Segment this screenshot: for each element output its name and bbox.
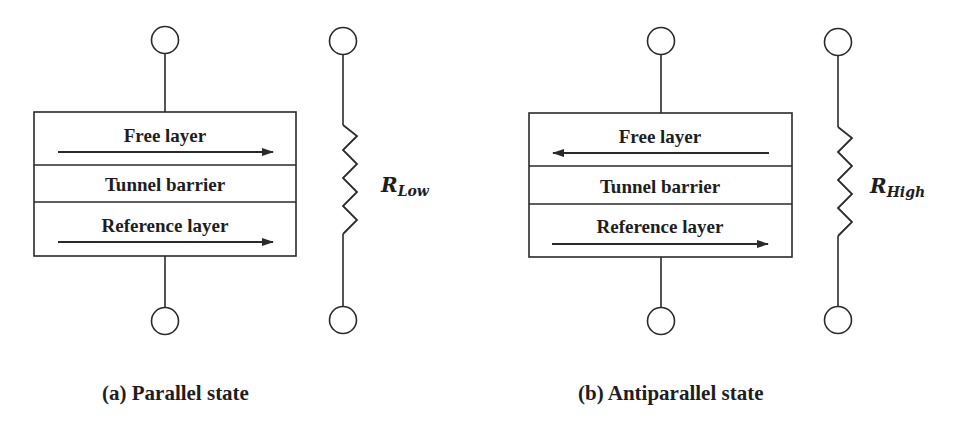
- resistor-zigzag-icon: [343, 125, 357, 234]
- panel-parallel: Free layer Tunnel barrier Reference laye…: [34, 27, 430, 406]
- top-terminal-icon: [648, 28, 675, 55]
- free-layer-label: Free layer: [124, 125, 207, 146]
- resistor-zigzag-icon: [838, 127, 852, 236]
- resistor-low: RLow: [330, 28, 430, 334]
- bottom-terminal-icon: [152, 308, 179, 335]
- bottom-terminal-icon: [648, 308, 675, 335]
- bottom-terminal-icon: [330, 307, 357, 334]
- tunnel-barrier-label: Tunnel barrier: [105, 174, 226, 195]
- panel-antiparallel: Free layer Tunnel barrier Reference laye…: [529, 28, 925, 406]
- mtj-diagram: Free layer Tunnel barrier Reference laye…: [0, 0, 959, 441]
- top-terminal-icon: [152, 27, 179, 54]
- top-terminal-icon: [330, 28, 357, 55]
- bottom-terminal-icon: [825, 307, 852, 334]
- caption-antiparallel-state: (b) Antiparallel state: [578, 381, 763, 405]
- free-layer-label: Free layer: [619, 126, 702, 147]
- resistance-label: RHigh: [869, 174, 925, 200]
- mtj-device-b: Free layer Tunnel barrier Reference laye…: [529, 28, 792, 335]
- resistor-high: RHigh: [825, 29, 926, 334]
- mtj-device-a: Free layer Tunnel barrier Reference laye…: [34, 27, 296, 335]
- top-terminal-icon: [825, 29, 852, 56]
- reference-layer-label: Reference layer: [102, 215, 229, 236]
- resistance-label: RLow: [380, 173, 430, 199]
- tunnel-barrier-label: Tunnel barrier: [600, 176, 721, 197]
- caption-parallel-state: (a) Parallel state: [102, 381, 249, 405]
- reference-layer-label: Reference layer: [597, 216, 724, 237]
